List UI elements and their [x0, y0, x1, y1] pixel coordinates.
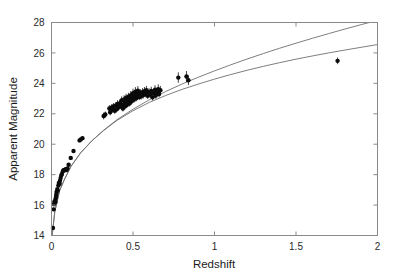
- y-tick-label-2: 18: [33, 169, 45, 180]
- data-point: [66, 163, 70, 167]
- y-tick-label-5: 24: [33, 78, 45, 89]
- chart-figure: 00.511.52 1416182022242628 Redshift Appa…: [0, 0, 397, 275]
- chart-background: [0, 0, 397, 275]
- x-tick-label-4: 2: [375, 241, 381, 252]
- data-point: [103, 112, 107, 116]
- y-tick-label-0: 14: [33, 230, 45, 241]
- data-point: [157, 92, 161, 96]
- x-tick-label-3: 1.5: [289, 241, 303, 252]
- data-point: [55, 188, 59, 192]
- x-tick-label-1: 0.5: [126, 241, 140, 252]
- x-tick-label-2: 1: [212, 241, 218, 252]
- x-tick-label-0: 0: [49, 241, 55, 252]
- data-point: [176, 75, 180, 79]
- y-axis-title: Apparent Magnitude: [7, 77, 19, 181]
- data-point: [335, 59, 339, 63]
- hubble-diagram-plot: 00.511.52 1416182022242628 Redshift Appa…: [0, 0, 397, 275]
- data-point: [69, 156, 73, 160]
- data-point: [71, 149, 75, 153]
- data-point: [53, 200, 57, 204]
- y-tick-label-6: 26: [33, 48, 45, 59]
- y-tick-label-1: 16: [33, 200, 45, 211]
- y-tick-label-3: 20: [33, 139, 45, 150]
- x-axis-title: Redshift: [193, 258, 236, 270]
- data-point: [80, 136, 84, 140]
- data-point: [51, 207, 55, 211]
- y-tick-label-7: 28: [33, 17, 45, 28]
- data-point: [186, 78, 190, 82]
- data-point: [158, 88, 162, 92]
- data-point: [184, 74, 188, 78]
- data-point: [65, 166, 69, 170]
- y-tick-label-4: 22: [33, 108, 45, 119]
